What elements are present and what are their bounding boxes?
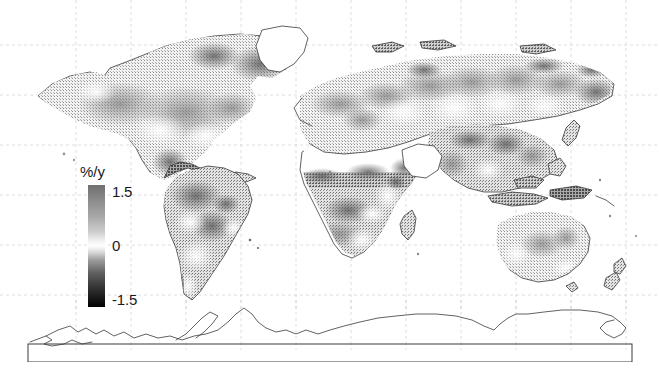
- antarctica-gridlines: [76, 300, 626, 350]
- region-south-east-asia: [402, 120, 614, 206]
- region-australia: [492, 208, 626, 292]
- antarctica-inset: [0, 300, 659, 362]
- antarctica-canvas: [0, 300, 659, 362]
- colorbar-unit-label: %/y: [80, 163, 105, 180]
- colorbar-max-label: 1.5: [112, 184, 132, 199]
- colorbar-mid-label: 0: [112, 238, 120, 253]
- region-north-america: [30, 26, 310, 212]
- colorbar-gradient: [88, 185, 105, 307]
- region-south-america: [160, 160, 260, 310]
- figure-root: %/y 1.5 0 -1.5: [0, 0, 659, 380]
- antarctica-coastline: [30, 308, 626, 342]
- antarctica-plot-frame: [28, 344, 632, 362]
- colorbar-gradient-wrapper: [88, 185, 105, 307]
